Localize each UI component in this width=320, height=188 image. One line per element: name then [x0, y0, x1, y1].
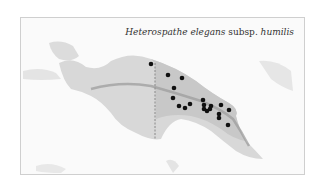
- occurrence-dot: [226, 123, 231, 128]
- occurrence-dot: [201, 98, 206, 103]
- map-title: Heterospathe elegans subsp. humilis: [125, 27, 294, 37]
- map-canvas: [21, 18, 304, 174]
- occurrence-dot: [217, 116, 222, 121]
- occurrence-dot: [217, 112, 222, 117]
- occurrence-dot: [219, 103, 224, 108]
- rank-label: subsp.: [225, 27, 260, 37]
- occurrence-dot: [171, 96, 176, 101]
- occurrence-dot: [180, 76, 185, 81]
- occurrence-dot: [177, 104, 182, 109]
- species-name: Heterospathe elegans: [125, 27, 225, 37]
- map-frame: Heterospathe elegans subsp. humilis: [20, 17, 305, 175]
- occurrence-dot: [166, 73, 171, 78]
- subspecies-name: humilis: [261, 27, 294, 37]
- occurrence-dot: [209, 104, 214, 109]
- occurrence-dot: [202, 103, 207, 108]
- occurrence-dot: [149, 62, 154, 67]
- occurrence-dot: [172, 86, 177, 91]
- occurrence-dot: [183, 106, 188, 111]
- occurrence-dot: [188, 102, 193, 107]
- occurrence-dot: [227, 108, 232, 113]
